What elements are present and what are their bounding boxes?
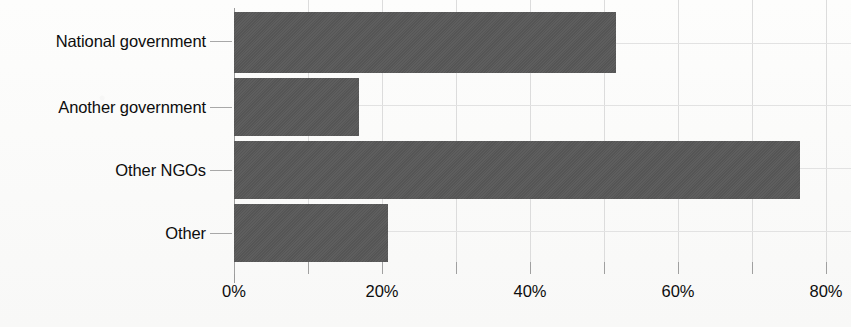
x-label-4: 80% (809, 282, 842, 301)
y-tick-dash-icon (210, 107, 232, 108)
plot-area (234, 12, 851, 262)
x-label-0: 0% (222, 282, 246, 301)
x-tick-mark (826, 262, 827, 274)
y-tick-dash-icon (210, 233, 232, 234)
y-label-2: Other NGOs (6, 161, 206, 180)
y-label-1: Another government (6, 98, 206, 117)
bar-national-government (234, 12, 616, 73)
x-label-1: 20% (365, 282, 398, 301)
x-label-3: 60% (661, 282, 694, 301)
y-label-3: Other (6, 224, 206, 243)
bar-other-ngos (234, 141, 800, 199)
y-tick-dash-icon (210, 170, 232, 171)
gridline-vertical (752, 0, 753, 262)
x-tick-mark (604, 262, 605, 274)
x-tick-mark (456, 262, 457, 274)
y-label-0: National government (6, 32, 206, 51)
x-tick-mark (530, 262, 531, 274)
x-tick-mark (752, 262, 753, 274)
y-tick-dash-icon (210, 41, 232, 42)
x-tick-mark (234, 262, 235, 274)
gridline-vertical (678, 0, 679, 262)
gridline-vertical (826, 0, 827, 262)
x-tick-mark (382, 262, 383, 274)
bar-other (234, 204, 388, 262)
bar-another-government (234, 78, 359, 136)
x-tick-mark (678, 262, 679, 274)
y-axis-labels: National government Another government O… (0, 0, 206, 327)
bar-chart: National government Another government O… (0, 0, 851, 327)
x-tick-mark (308, 262, 309, 274)
x-label-2: 40% (513, 282, 546, 301)
